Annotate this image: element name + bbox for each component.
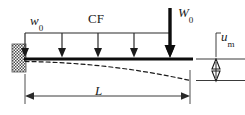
label-tip-deflection-symbol: u xyxy=(221,29,228,44)
span-dimension-line xyxy=(25,92,190,100)
distributed-load-arrows xyxy=(21,33,174,58)
label-tip-load-subscript: 0 xyxy=(189,15,194,25)
label-tip-load-symbol: W xyxy=(178,5,189,20)
label-distributed-load-symbol: w xyxy=(30,13,39,28)
label-span-symbol: L xyxy=(95,83,102,98)
label-span: L xyxy=(95,82,102,101)
load-arrow xyxy=(130,33,138,58)
deflection-curve xyxy=(25,62,190,81)
load-arrow xyxy=(58,33,66,58)
label-distributed-load: w0 xyxy=(30,12,43,31)
label-tip-deflection: um xyxy=(221,28,235,47)
deflection-dimension-arrow xyxy=(212,59,220,81)
label-tip-load: W0 xyxy=(178,4,193,23)
cantilever-beam-diagram: w0 CF W0 um L xyxy=(0,0,245,115)
deflection-reference-lines xyxy=(196,59,245,81)
label-load-case: CF xyxy=(88,10,104,26)
label-tip-deflection-subscript: m xyxy=(228,39,235,49)
label-load-case-text: CF xyxy=(88,11,104,26)
label-distributed-load-subscript: 0 xyxy=(39,23,44,33)
load-arrow xyxy=(94,33,102,58)
